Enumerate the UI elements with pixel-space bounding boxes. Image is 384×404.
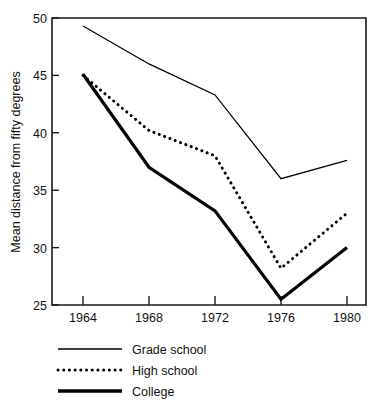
x-tick-label-1972: 1972 — [201, 311, 229, 325]
legend-label-high-school: High school — [132, 364, 197, 378]
y-axis-title: Mean distance from fifty degrees — [9, 71, 23, 252]
y-tick-label-35: 35 — [33, 184, 47, 198]
y-tick-label-45: 45 — [33, 69, 47, 83]
line-chart-svg: 50 45 40 35 30 25 1964 1968 1972 1976 19… — [0, 0, 384, 404]
x-tick-label-1980: 1980 — [333, 311, 361, 325]
y-tick-label-40: 40 — [33, 127, 47, 141]
y-tick-label-25: 25 — [33, 299, 47, 313]
x-tick-label-1964: 1964 — [69, 311, 97, 325]
y-tick-label-50: 50 — [33, 12, 47, 26]
y-tick-label-30: 30 — [33, 242, 47, 256]
chart-figure: 50 45 40 35 30 25 1964 1968 1972 1976 19… — [0, 0, 384, 404]
x-tick-label-1976: 1976 — [267, 311, 295, 325]
legend-label-grade-school: Grade school — [132, 343, 206, 357]
legend-label-college: College — [132, 385, 174, 399]
x-tick-label-1968: 1968 — [135, 311, 163, 325]
